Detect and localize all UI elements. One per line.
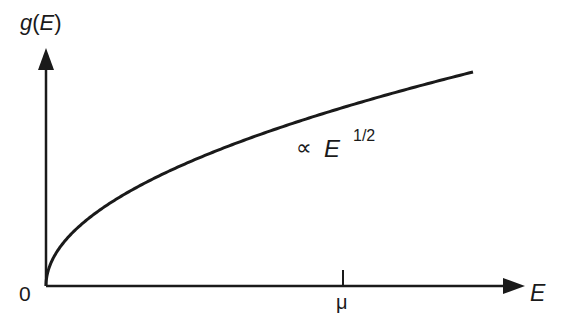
x-axis-label: E — [530, 280, 546, 306]
origin-label: 0 — [19, 282, 31, 305]
annotation-base: E — [324, 135, 341, 162]
sqrt-curve — [46, 72, 473, 286]
y-axis-arrow-icon — [38, 48, 54, 70]
proportional-symbol: ∝ — [296, 135, 312, 160]
density-of-states-diagram: g(E) 0 μ E ∝ E 1/2 — [0, 0, 567, 334]
y-axis-label: g(E) — [20, 10, 62, 35]
x-axis-arrow-icon — [503, 278, 525, 294]
mu-label: μ — [336, 291, 348, 313]
annotation-exponent: 1/2 — [353, 127, 375, 144]
